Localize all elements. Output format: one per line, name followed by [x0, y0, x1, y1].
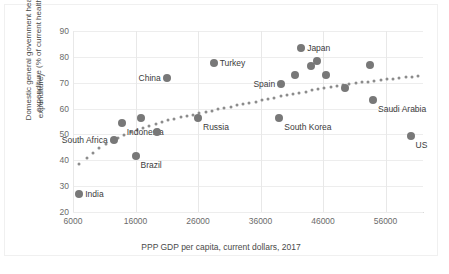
- y-axis-tick-label: 70: [45, 78, 69, 87]
- trendline-dot: [404, 76, 407, 79]
- y-axis-tick-label: 30: [45, 182, 69, 191]
- data-point[interactable]: [118, 119, 126, 127]
- trendline-dot: [85, 156, 88, 159]
- trendline-dot: [242, 103, 245, 106]
- gridline-horizontal: [73, 83, 423, 84]
- data-point[interactable]: [132, 152, 140, 160]
- trendline-dot: [417, 74, 420, 77]
- x-axis-title: PPP GDP per capita, current dollars, 201…: [5, 242, 437, 252]
- trendline-dot: [254, 100, 257, 103]
- data-point[interactable]: [163, 74, 171, 82]
- data-point-label: Spain: [253, 80, 275, 89]
- trendline-dot: [398, 76, 401, 79]
- trendline-dot: [123, 133, 126, 136]
- trendline-dot: [373, 79, 376, 82]
- trendline-dot: [267, 98, 270, 101]
- trendline-dot: [98, 146, 101, 149]
- data-point-label: South Korea: [284, 123, 331, 132]
- gridline-horizontal: [73, 109, 423, 110]
- gridline-horizontal: [73, 186, 423, 187]
- trendline-dot: [298, 91, 301, 94]
- trendline-dot: [173, 117, 176, 120]
- trendline-dot: [229, 105, 232, 108]
- data-point[interactable]: [291, 71, 299, 79]
- trendline-dot: [392, 77, 395, 80]
- gridline-horizontal: [73, 31, 423, 32]
- data-point[interactable]: [277, 80, 285, 88]
- trendline-dot: [367, 80, 370, 83]
- trendline-dot: [273, 96, 276, 99]
- trendline-dot: [260, 99, 263, 102]
- data-point-label: Saudi Arabia: [378, 105, 426, 114]
- data-point[interactable]: [407, 132, 415, 140]
- trendline-dot: [217, 108, 220, 111]
- y-axis-tick-label: 80: [45, 53, 69, 62]
- data-point-label: Brazil: [141, 161, 162, 170]
- trendline-dot: [304, 90, 307, 93]
- data-point[interactable]: [75, 190, 83, 198]
- trendline-dot: [385, 78, 388, 81]
- data-point[interactable]: [341, 84, 349, 92]
- x-axis-tick-label: 46000: [311, 217, 335, 226]
- gridline-horizontal: [73, 160, 423, 161]
- gridline-vertical: [73, 31, 74, 212]
- trendline-dot: [248, 101, 251, 104]
- trendline-dot: [335, 85, 338, 88]
- trendline-dot: [160, 121, 163, 124]
- data-point-label: South Africa: [62, 136, 108, 145]
- y-axis-tick-label: 40: [45, 156, 69, 165]
- trendline-dot: [223, 107, 226, 110]
- trendline-dot: [179, 116, 182, 119]
- y-axis-tick-label: 60: [45, 104, 69, 113]
- x-axis-tick-label: 16000: [124, 217, 148, 226]
- trendline-dot: [154, 122, 157, 125]
- data-point[interactable]: [322, 71, 330, 79]
- data-point[interactable]: [313, 57, 321, 65]
- data-point[interactable]: [366, 61, 374, 69]
- data-point-label: Turkey: [220, 59, 246, 68]
- gridline-horizontal: [73, 57, 423, 58]
- trendline-dot: [292, 92, 295, 95]
- trendline-dot: [210, 109, 213, 112]
- gridline-vertical: [386, 31, 387, 212]
- y-axis-tick-label: 90: [45, 27, 69, 36]
- data-point-label: China: [139, 74, 161, 83]
- trendline-dot: [317, 88, 320, 91]
- data-point[interactable]: [275, 114, 283, 122]
- data-point[interactable]: [210, 59, 218, 67]
- gridline-horizontal: [73, 212, 423, 213]
- trendline-dot: [410, 75, 413, 78]
- data-point[interactable]: [110, 136, 118, 144]
- data-point[interactable]: [194, 114, 202, 122]
- plot-area: IndiaSouth AfricaIndonesiaBrazilChinaRus…: [73, 31, 423, 212]
- chart-container: Domestic general government health expen…: [4, 4, 438, 256]
- y-axis-tick-label: 20: [45, 208, 69, 217]
- x-axis-tick-label: 36000: [249, 217, 273, 226]
- x-axis-tick-label: 56000: [374, 217, 398, 226]
- x-axis-tick-label: 6000: [64, 217, 83, 226]
- data-point[interactable]: [297, 44, 305, 52]
- data-point[interactable]: [153, 128, 161, 136]
- data-point-label: US: [416, 141, 428, 150]
- trendline-dot: [235, 104, 238, 107]
- trendline-dot: [323, 87, 326, 90]
- trendline-dot: [285, 94, 288, 97]
- trendline-dot: [167, 119, 170, 122]
- data-point[interactable]: [137, 114, 145, 122]
- data-point[interactable]: [369, 96, 377, 104]
- gridline-vertical: [261, 31, 262, 212]
- x-axis-tick-label: 26000: [186, 217, 210, 226]
- trendline-dot: [354, 82, 357, 85]
- data-point-label: India: [85, 190, 103, 199]
- y-axis-title-line1: Domestic general government health: [24, 0, 34, 140]
- trendline-dot: [360, 81, 363, 84]
- data-point-label: Russia: [203, 123, 229, 132]
- gridline-vertical: [136, 31, 137, 212]
- data-point-label: Japan: [307, 44, 330, 53]
- trendline-dot: [279, 95, 282, 98]
- trendline-dot: [204, 110, 207, 113]
- trendline-dot: [78, 163, 81, 166]
- trendline-dot: [92, 151, 95, 154]
- trendline-dot: [379, 79, 382, 82]
- trendline-dot: [310, 89, 313, 92]
